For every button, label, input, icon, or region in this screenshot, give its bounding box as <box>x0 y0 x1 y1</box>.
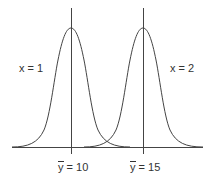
diagram-canvas: x = 1 x = 2 y = 10 y = 15 <box>0 0 214 183</box>
curve-label-x2: x = 2 <box>170 62 194 74</box>
mean-value-text: = 10 <box>64 161 89 173</box>
mean-value-text: = 15 <box>136 161 161 173</box>
mean-label-1: y = 10 <box>58 161 88 173</box>
distribution-plot <box>0 0 214 183</box>
mean-label-2: y = 15 <box>130 161 160 173</box>
curve-label-x1: x = 1 <box>19 62 43 74</box>
